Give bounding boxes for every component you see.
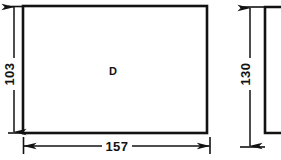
dimension-height-103: 103 [2, 7, 23, 134]
dimension-value-157: 157 [105, 139, 128, 154]
dimension-width-157: 157 [24, 137, 211, 154]
part-label-d: D [109, 65, 117, 77]
dimension-value-103: 103 [2, 62, 17, 85]
side-view-profile [265, 7, 281, 133]
dimension-value-130: 130 [238, 62, 253, 85]
engineering-drawing: D 103 157 1 [0, 0, 281, 160]
profile-outline [265, 7, 281, 133]
dimension-height-130: 130 [238, 7, 265, 147]
